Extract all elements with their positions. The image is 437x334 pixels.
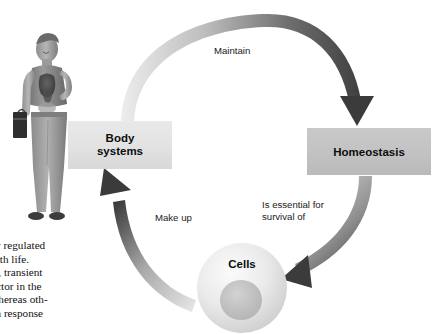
node-cells: Cells xyxy=(196,242,288,334)
node-body-systems-label-line2: systems xyxy=(97,145,143,157)
node-body-systems-label: Body systems xyxy=(97,132,143,159)
body-text-line: ated factor in the xyxy=(0,280,126,294)
node-body-systems-label-line1: Body xyxy=(106,132,135,144)
figure-canvas: dy or s xyxy=(0,0,437,334)
body-text-line: tible with life. xyxy=(0,253,126,267)
body-text-line: arefully regulated xyxy=(0,239,126,253)
arrow-maintain xyxy=(121,14,374,127)
arrow-label-essential-line2: survival of xyxy=(262,211,305,222)
body-text-line: evel, whereas oth- xyxy=(0,293,126,307)
node-body-systems: Body systems xyxy=(68,121,172,169)
cell-shape-icon xyxy=(196,242,288,334)
node-cells-label: Cells xyxy=(196,258,288,270)
body-text-line: place in response xyxy=(0,307,126,321)
node-homeostasis-label: Homeostasis xyxy=(333,146,405,158)
body-text-line: nediate, transient xyxy=(0,266,126,280)
arrow-label-maintain: Maintain xyxy=(214,45,250,57)
arrow-label-is-essential-for-survival-of: Is essential for survival of xyxy=(262,199,324,222)
arrow-label-essential-line1: Is essential for xyxy=(262,199,324,210)
body-text-column: arefully regulated tible with life. nedi… xyxy=(0,239,126,321)
node-homeostasis: Homeostasis xyxy=(307,128,431,175)
arrow-is-essential-for-survival-of xyxy=(281,176,372,288)
arrow-label-make-up: Make up xyxy=(155,212,192,224)
